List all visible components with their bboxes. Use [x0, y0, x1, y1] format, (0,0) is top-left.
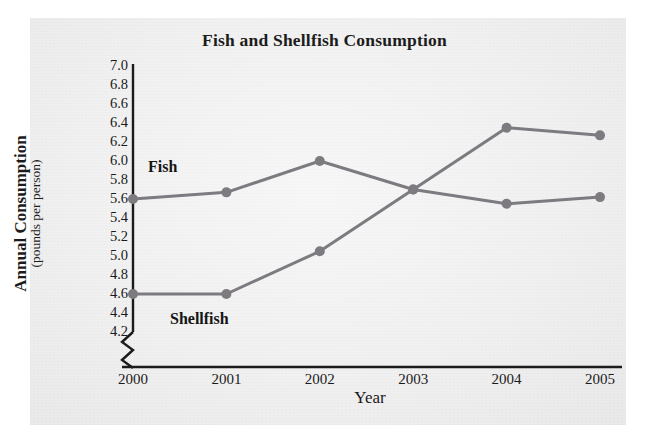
y-tick-label: 6.6 — [94, 95, 128, 112]
y-tick-label: 4.2 — [94, 323, 128, 340]
data-series-group — [128, 123, 605, 299]
series-label-fish: Fish — [148, 158, 177, 176]
data-point-marker — [595, 192, 605, 202]
series-fish — [128, 156, 605, 209]
x-tick-label: 2001 — [197, 371, 255, 388]
data-point-marker — [221, 187, 231, 197]
y-tick-label: 5.0 — [94, 247, 128, 264]
y-tick-label: 5.8 — [94, 171, 128, 188]
x-tick-label: 2004 — [478, 371, 536, 388]
data-point-marker — [315, 156, 325, 166]
y-tick-label: 6.0 — [94, 152, 128, 169]
y-tick-label: 5.4 — [94, 209, 128, 226]
y-tick-label: 7.0 — [94, 57, 128, 74]
y-tick-label: 4.8 — [94, 266, 128, 283]
x-tick-label: 2000 — [104, 371, 162, 388]
y-tick-label: 6.4 — [94, 114, 128, 131]
y-tick-label: 6.2 — [94, 133, 128, 150]
data-point-marker — [408, 185, 418, 195]
x-tick-label: 2005 — [571, 371, 629, 388]
x-tick-label: 2003 — [384, 371, 442, 388]
x-tick-label: 2002 — [291, 371, 349, 388]
data-point-marker — [502, 123, 512, 133]
y-tick-label: 4.6 — [94, 285, 128, 302]
series-shellfish — [128, 123, 605, 299]
data-point-marker — [128, 289, 138, 299]
data-point-marker — [221, 289, 231, 299]
series-line — [133, 128, 600, 294]
data-point-marker — [502, 199, 512, 209]
line-chart: Fish and Shellfish Consumption Annual Co… — [0, 0, 649, 445]
data-point-marker — [128, 194, 138, 204]
series-label-shellfish: Shellfish — [170, 310, 229, 328]
y-tick-label: 5.2 — [94, 228, 128, 245]
y-tick-label: 4.4 — [94, 304, 128, 321]
y-tick-label: 6.8 — [94, 76, 128, 93]
data-point-marker — [595, 130, 605, 140]
y-tick-label: 5.6 — [94, 190, 128, 207]
data-point-marker — [315, 246, 325, 256]
series-line — [133, 161, 600, 204]
